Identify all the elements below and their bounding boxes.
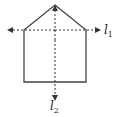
label-l1: l1 — [104, 23, 113, 39]
pentagon-shape — [24, 5, 86, 82]
label-l2: l2 — [50, 99, 59, 115]
symmetry-diagram: l1 l2 — [0, 0, 116, 117]
